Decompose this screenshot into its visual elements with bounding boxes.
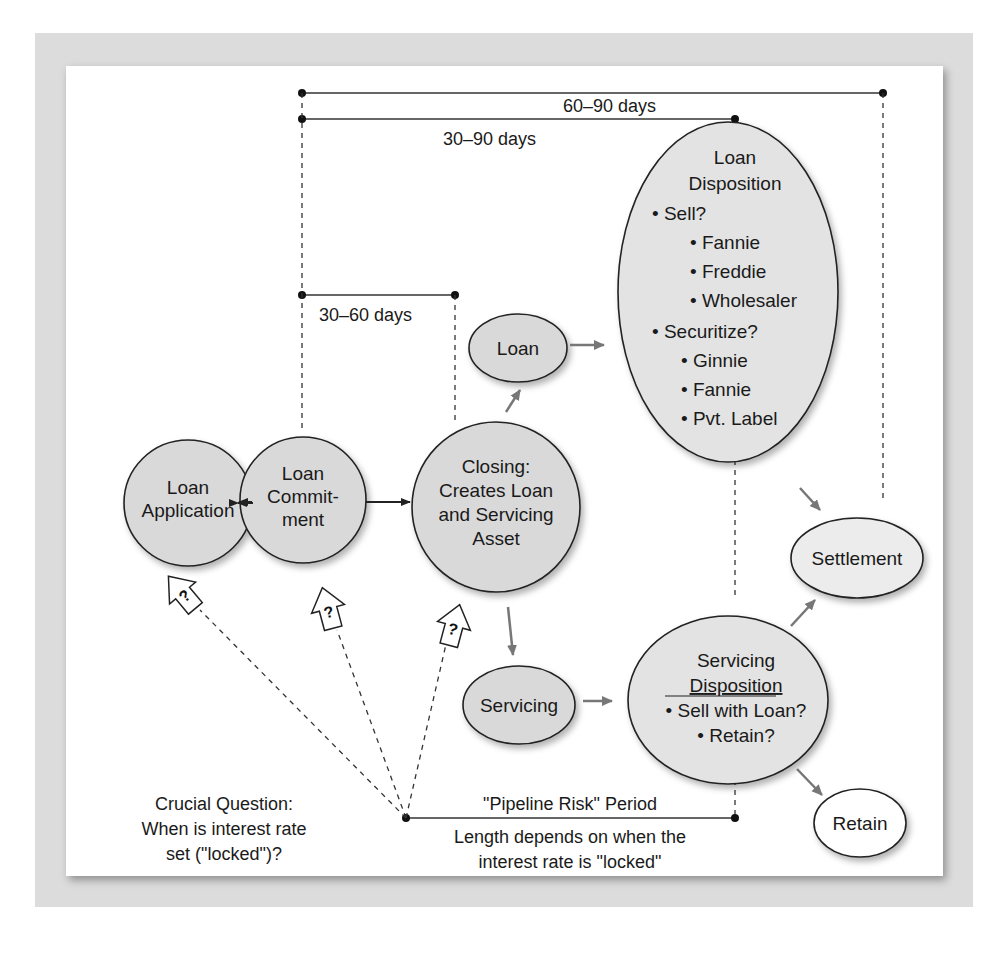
- node-servicing-label: Servicing: [480, 695, 558, 716]
- loan-disposition-item: • Sell?: [652, 203, 706, 224]
- node-closing-label: and Servicing: [438, 504, 553, 525]
- lock-marker-closing: ?: [432, 600, 476, 649]
- loan-disposition-item: • Freddie: [690, 261, 766, 282]
- timeline-label: 30–90 days: [443, 129, 536, 149]
- crucial-question-line: When is interest rate: [141, 819, 306, 839]
- pipeline-diagram: 60–90 days 30–90 days 30–60 days ?: [0, 0, 999, 960]
- loan-disposition-item: • Wholesaler: [690, 290, 798, 311]
- node-loan-label: Loan: [497, 338, 539, 359]
- node-closing-label: Closing:: [462, 456, 531, 477]
- timeline-label: 30–60 days: [319, 305, 412, 325]
- node-settlement-label: Settlement: [812, 548, 904, 569]
- node-retain-label: Retain: [833, 813, 888, 834]
- lock-pointers: [200, 610, 447, 818]
- crucial-question-line: Crucial Question:: [155, 794, 293, 814]
- node-loan-commitment-label: Loan: [282, 463, 324, 484]
- pipeline-risk: "Pipeline Risk" Period Length depends on…: [454, 794, 686, 872]
- pipeline-risk-note: Length depends on when the: [454, 827, 686, 847]
- node-loan-application-label: Application: [142, 500, 235, 521]
- loan-disposition-item: • Securitize?: [652, 321, 758, 342]
- node-loan-commitment-label: Commit-: [267, 486, 339, 507]
- pipeline-risk-title: "Pipeline Risk" Period: [483, 794, 657, 814]
- node-closing-label: Creates Loan: [439, 480, 553, 501]
- loan-disposition-item: • Fannie: [681, 379, 751, 400]
- loan-disposition-item: • Pvt. Label: [681, 408, 777, 429]
- timeline-30-60: 30–60 days: [298, 291, 459, 325]
- loan-disposition-title: Loan: [714, 147, 756, 168]
- servicing-disposition-title: Servicing: [697, 650, 775, 671]
- timeline-label: 60–90 days: [563, 96, 656, 116]
- pipeline-risk-note: interest rate is "locked": [479, 852, 662, 872]
- node-loan-commitment-label: ment: [282, 509, 325, 530]
- loan-disposition-item: • Fannie: [690, 232, 760, 253]
- node-closing-label: Asset: [472, 528, 520, 549]
- servicing-disposition-title: Disposition: [690, 675, 783, 696]
- servicing-disposition-item: • Sell with Loan?: [666, 700, 807, 721]
- crucial-question: Crucial Question: When is interest rate …: [141, 794, 306, 864]
- loan-disposition-item: • Ginnie: [681, 350, 748, 371]
- timeline-60-90: 60–90 days: [298, 89, 887, 116]
- lock-marker-commitment: ?: [306, 583, 350, 632]
- crucial-question-line: set ("locked")?: [166, 844, 282, 864]
- servicing-disposition-item: • Retain?: [697, 725, 774, 746]
- pipeline-risk-line: [402, 814, 739, 822]
- loan-disposition-title: Disposition: [689, 173, 782, 194]
- node-loan-application-label: Loan: [167, 477, 209, 498]
